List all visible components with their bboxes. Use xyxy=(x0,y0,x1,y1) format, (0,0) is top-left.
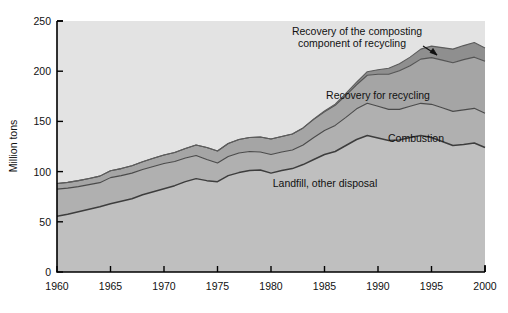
series-label-recycling: Recovery for recycling xyxy=(326,89,430,101)
x-tick-label: 1980 xyxy=(259,280,283,292)
y-tick-label: 50 xyxy=(39,216,51,228)
y-tick-label: 200 xyxy=(33,65,51,77)
x-tick-label: 1995 xyxy=(420,280,444,292)
composting-annotation-line1: Recovery of the composting xyxy=(292,25,422,37)
chart-figure: 0501001502002501960196519701975198019851… xyxy=(0,0,508,313)
y-tick-label: 150 xyxy=(33,115,51,127)
y-tick-label: 0 xyxy=(45,266,51,278)
x-tick-label: 1965 xyxy=(99,280,123,292)
y-axis-title: Million tons xyxy=(7,120,19,173)
x-tick-label: 2000 xyxy=(473,280,497,292)
y-tick-label: 250 xyxy=(33,15,51,27)
composting-annotation-line2: component of recycling xyxy=(298,37,406,49)
x-tick-label: 1990 xyxy=(366,280,390,292)
x-tick-label: 1970 xyxy=(152,280,176,292)
x-tick-label: 1975 xyxy=(206,280,230,292)
series-label-combustion: Combustion xyxy=(388,132,444,144)
y-tick-label: 100 xyxy=(33,166,51,178)
series-label-landfill: Landfill, other disposal xyxy=(273,177,377,189)
stacked-area-chart: 0501001502002501960196519701975198019851… xyxy=(0,0,508,313)
x-tick-label: 1985 xyxy=(313,280,337,292)
x-tick-label: 1960 xyxy=(45,280,69,292)
